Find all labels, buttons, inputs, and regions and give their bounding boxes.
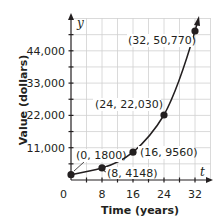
y-tick-label: 11,000: [27, 142, 66, 155]
x-tick-label: 24: [157, 188, 171, 201]
x-tick-label: 16: [126, 188, 140, 201]
point-label: (24, 22,030): [95, 98, 163, 111]
data-point: [67, 171, 74, 178]
y-axis-title: Value (dollars): [17, 55, 30, 146]
y-tick-label: 22,000: [27, 109, 66, 122]
x-tick-label: 8: [99, 188, 106, 201]
x-axis-arrow-icon: [206, 177, 213, 183]
exponential-value-chart: y t 0 8 16 24 32 11,000 22,000 33,000 44…: [0, 0, 221, 221]
x-tick-label: 32: [188, 188, 202, 201]
data-point: [129, 149, 136, 156]
x-axis-variable: t: [200, 165, 205, 179]
point-label: (32, 50,770): [128, 34, 196, 47]
x-axis-title: Time (years): [101, 204, 179, 217]
origin-label: 0: [60, 188, 67, 201]
y-axis-arrow-icon: [68, 13, 74, 20]
y-tick-label: 44,000: [27, 45, 66, 58]
leader-line: [74, 162, 84, 171]
data-point: [160, 111, 167, 118]
data-point: [98, 164, 105, 171]
point-label: (0, 1800): [76, 149, 127, 162]
point-label: (8, 4148): [107, 167, 158, 180]
point-label: (16, 9560): [140, 146, 198, 159]
y-axis-variable: y: [76, 16, 84, 30]
y-tick-label: 33,000: [27, 77, 66, 90]
